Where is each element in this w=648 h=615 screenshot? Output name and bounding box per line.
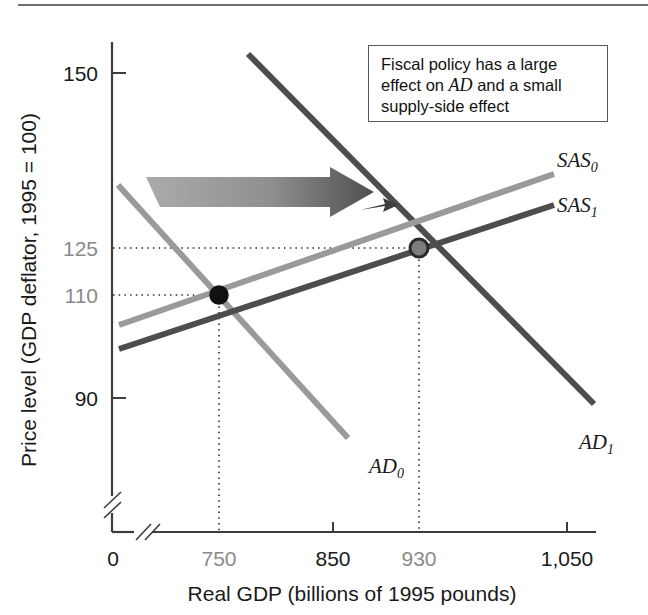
- curve-label-sas1: SAS1: [557, 193, 598, 220]
- x-axis-title: Real GDP (billions of 1995 pounds): [188, 582, 517, 605]
- x-tick-label-850: 850: [315, 547, 350, 570]
- callout-line-2-post: and a small: [473, 76, 562, 94]
- curve-sas1: [119, 205, 554, 349]
- y-tick-label-110: 110: [65, 284, 98, 307]
- callout-line-3: supply-side effect: [381, 97, 509, 115]
- equilibrium-marker-new: [410, 239, 428, 257]
- ad-shift-arrow: [146, 167, 374, 217]
- curve-label-ad0: AD0: [367, 454, 404, 481]
- callout-line-2-emphasis: AD: [449, 75, 473, 95]
- y-tick-label-90: 90: [75, 387, 98, 410]
- y-axis: [104, 42, 121, 532]
- x-tick-label-1050: 1,050: [541, 547, 594, 570]
- curve-label-ad1: AD1: [577, 430, 614, 457]
- equilibrium-marker-initial: [210, 286, 228, 304]
- curve-label-sas0: SAS0: [557, 148, 598, 175]
- y-axis-title: Price level (GDP deflator, 1995 = 100): [17, 113, 40, 467]
- figure-container: 150 125 110 90 0 750 850 930 1,050 Real …: [0, 0, 648, 615]
- x-axis: [112, 524, 596, 540]
- x-axis-origin-label: 0: [107, 547, 119, 570]
- callout-box: Fiscal policy has a largeeffect on AD an…: [368, 45, 608, 122]
- x-tick-label-750: 750: [201, 547, 236, 570]
- callout-line-2-pre: effect on: [381, 76, 449, 94]
- x-tick-label-930: 930: [401, 547, 436, 570]
- x-tick-marks: [333, 522, 567, 532]
- callout-line-1: Fiscal policy has a large: [381, 55, 557, 73]
- y-tick-label-150: 150: [63, 62, 98, 85]
- callout-text: Fiscal policy has a largeeffect on AD an…: [369, 46, 607, 117]
- guide-lines: [113, 248, 419, 532]
- y-tick-label-125: 125: [63, 237, 98, 260]
